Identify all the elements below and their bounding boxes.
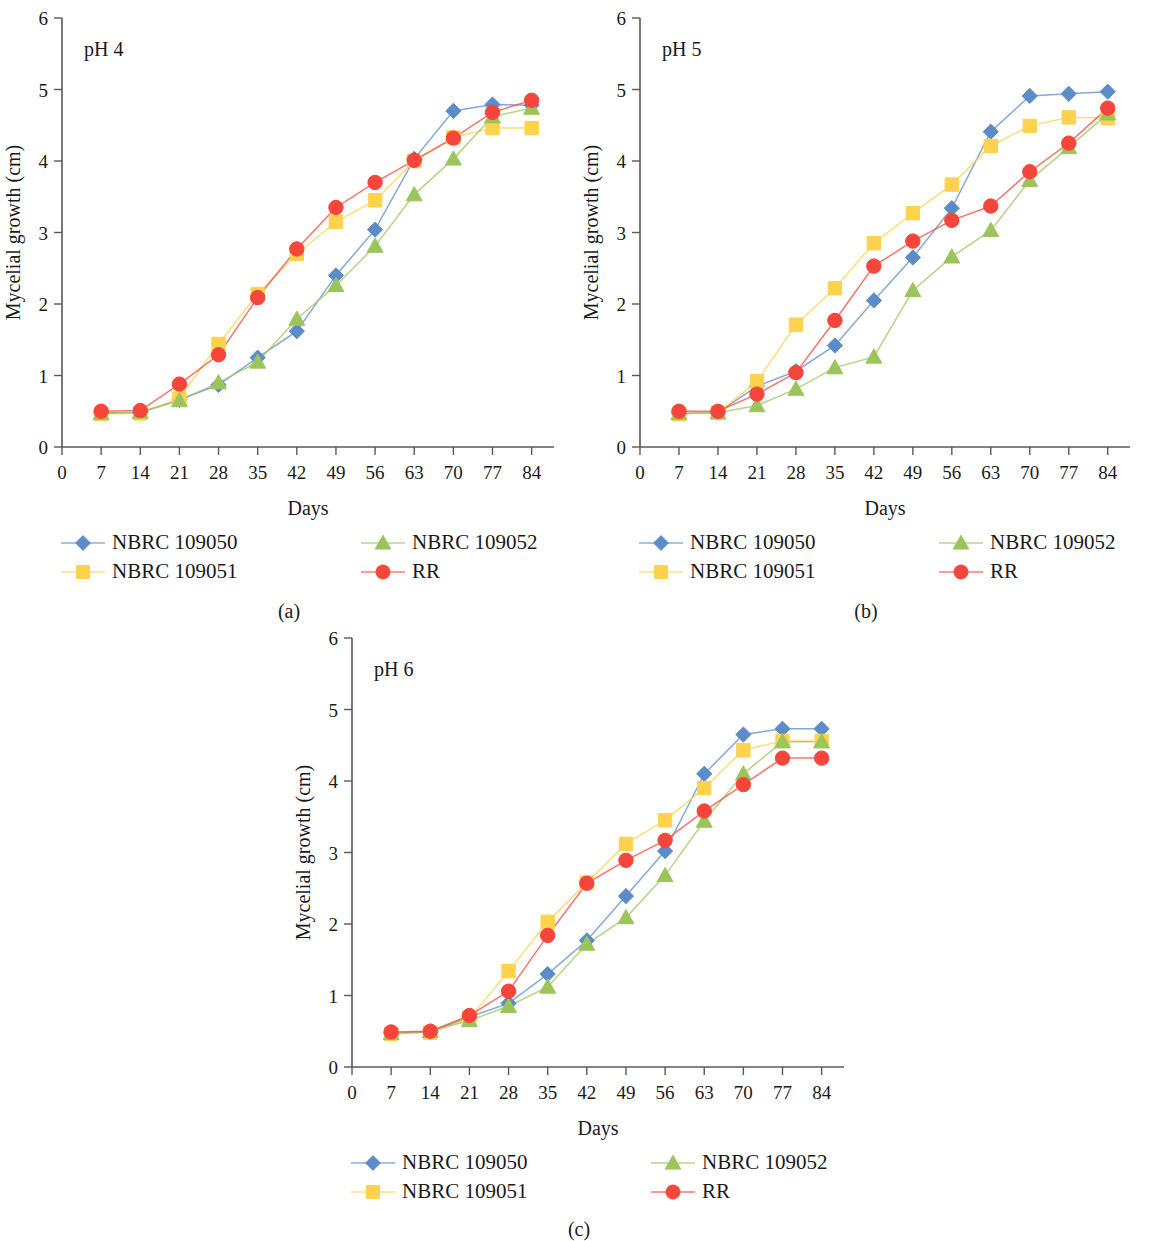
data-point-marker: [905, 282, 921, 296]
x-tick-label: 70: [1020, 462, 1039, 483]
x-tick-label: 77: [483, 462, 502, 483]
data-point-marker: [133, 403, 147, 417]
x-tick-label: 42: [577, 1082, 596, 1103]
y-tick-label: 5: [329, 700, 339, 721]
legend-item[interactable]: RR: [650, 1179, 850, 1204]
x-tick-label: 7: [96, 462, 106, 483]
series-line: [679, 108, 1108, 411]
chart-c-legend: NBRC 109050NBRC 109052NBRC 109051RR: [350, 1148, 850, 1206]
data-point-marker: [329, 215, 342, 228]
data-point-marker: [446, 103, 461, 118]
y-axis-title: Mycelial growth (cm): [292, 765, 315, 941]
data-point-marker: [866, 349, 882, 363]
circle-marker-icon: [650, 1181, 696, 1203]
x-tick-label: 56: [942, 462, 961, 483]
data-point-marker: [485, 105, 499, 119]
data-point-marker: [1023, 119, 1036, 132]
data-point-marker: [657, 867, 673, 881]
circle-marker-icon: [360, 561, 406, 583]
series-line: [101, 100, 532, 411]
square-marker-icon: [350, 1181, 396, 1203]
x-tick-label: 35: [248, 462, 267, 483]
data-point-marker: [750, 375, 763, 388]
data-point-marker: [1062, 111, 1075, 124]
data-point-marker: [94, 404, 108, 418]
x-tick-label: 49: [616, 1082, 635, 1103]
data-point-marker: [945, 178, 958, 191]
x-tick-label: 70: [444, 462, 463, 483]
data-point-marker: [828, 313, 842, 327]
y-tick-label: 2: [39, 294, 49, 315]
x-tick-label: 14: [708, 462, 728, 483]
panel-c-caption: (c): [290, 1218, 868, 1241]
chart-a-plot: 0123456071421283542495663707784DaysMycel…: [0, 0, 578, 520]
y-tick-label: 6: [617, 8, 627, 29]
x-tick-label: 21: [460, 1082, 479, 1103]
y-axis-title: Mycelial growth (cm): [580, 145, 603, 321]
legend-item[interactable]: NBRC 109050: [350, 1150, 650, 1175]
series-line: [679, 92, 1108, 414]
data-point-marker: [541, 915, 554, 928]
chart-a-legend: NBRC 109050NBRC 109052NBRC 109051RR: [60, 528, 560, 586]
y-tick-label: 0: [39, 437, 49, 458]
data-point-marker: [984, 139, 997, 152]
x-tick-label: 0: [635, 462, 645, 483]
chart-panel-a: 0123456071421283542495663707784DaysMycel…: [0, 0, 578, 620]
series-line: [101, 108, 532, 413]
data-point-marker: [250, 290, 264, 304]
data-point-marker: [619, 837, 632, 850]
x-tick-label: 0: [347, 1082, 357, 1103]
x-axis-title: Days: [287, 497, 328, 520]
data-point-marker: [368, 194, 381, 207]
data-point-marker: [1062, 136, 1076, 150]
legend-item-label: NBRC 109052: [412, 530, 537, 555]
x-tick-label: 77: [773, 1082, 792, 1103]
data-point-marker: [524, 93, 538, 107]
y-tick-label: 3: [617, 223, 627, 244]
legend-item[interactable]: RR: [360, 559, 560, 584]
y-tick-label: 5: [617, 80, 627, 101]
x-tick-label: 63: [405, 462, 424, 483]
x-axis-title: Days: [577, 1117, 618, 1140]
x-tick-label: 63: [695, 1082, 714, 1103]
y-tick-label: 0: [617, 437, 627, 458]
diamond-marker-icon: [60, 532, 106, 554]
data-point-marker: [658, 814, 671, 827]
y-axis-title: Mycelial growth (cm): [2, 145, 25, 321]
legend-item[interactable]: NBRC 109050: [60, 530, 360, 555]
x-tick-label: 70: [734, 1082, 753, 1103]
series-line: [391, 742, 822, 1034]
chart-b-plot: 0123456071421283542495663707784DaysMycel…: [578, 0, 1154, 520]
legend-item[interactable]: NBRC 109051: [350, 1179, 650, 1204]
data-point-marker: [580, 876, 594, 890]
data-point-marker: [828, 282, 841, 295]
legend-item[interactable]: NBRC 109052: [938, 530, 1138, 555]
legend-item[interactable]: NBRC 109052: [360, 530, 560, 555]
legend-item[interactable]: NBRC 109050: [638, 530, 938, 555]
legend-item[interactable]: NBRC 109051: [60, 559, 360, 584]
x-tick-label: 7: [674, 462, 684, 483]
data-point-marker: [289, 311, 305, 325]
data-point-marker: [368, 175, 382, 189]
y-tick-label: 4: [617, 151, 627, 172]
series-line: [391, 741, 822, 1034]
x-tick-label: 84: [1098, 462, 1118, 483]
legend-item-label: NBRC 109051: [402, 1179, 527, 1204]
y-tick-label: 6: [329, 628, 339, 649]
x-tick-label: 35: [538, 1082, 557, 1103]
legend-item-label: NBRC 109051: [112, 559, 237, 584]
legend-item[interactable]: NBRC 109051: [638, 559, 938, 584]
x-tick-label: 42: [287, 462, 306, 483]
legend-item[interactable]: NBRC 109052: [650, 1150, 850, 1175]
legend-item-label: NBRC 109050: [402, 1150, 527, 1175]
data-point-marker: [867, 259, 881, 273]
y-tick-label: 3: [39, 223, 49, 244]
data-point-marker: [540, 928, 554, 942]
data-point-marker: [1061, 86, 1076, 101]
series-line: [679, 114, 1108, 414]
data-point-marker: [462, 1008, 476, 1022]
x-tick-label: 21: [747, 462, 766, 483]
x-tick-label: 56: [656, 1082, 675, 1103]
x-tick-label: 14: [421, 1082, 441, 1103]
legend-item[interactable]: RR: [938, 559, 1138, 584]
